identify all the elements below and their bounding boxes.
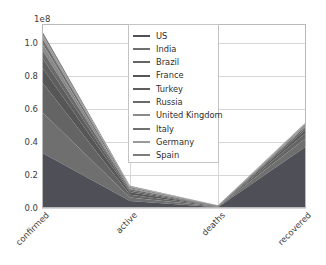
chart-figure: 1e8 0.00.20.40.60.81.0 confirmedactivede… (0, 0, 326, 265)
x-tick-label: recovered (262, 210, 313, 261)
gridline-horizontal (42, 208, 306, 209)
legend-label: Italy (156, 125, 174, 133)
legend-label: India (156, 45, 176, 53)
legend-swatch-line-icon (133, 35, 150, 37)
legend-label: Germany (156, 138, 194, 146)
y-tick-label: 0.8 (24, 71, 38, 81)
y-tick-label: 0.2 (24, 170, 38, 180)
legend-swatch-line-icon (133, 101, 150, 103)
legend-item[interactable]: United Kingdom (133, 109, 214, 122)
x-tick-label: confirmed (0, 210, 51, 261)
y-tick-label: 0.0 (24, 203, 38, 213)
legend-label: US (156, 32, 167, 40)
legend-item[interactable]: France (133, 69, 214, 82)
legend-item[interactable]: US (133, 29, 214, 42)
legend-swatch-line-icon (133, 75, 150, 77)
legend-label: Brazil (156, 58, 179, 66)
y-axis-tick-labels: 0.00.20.40.60.81.0 (0, 24, 38, 208)
legend-item[interactable]: India (133, 42, 214, 55)
legend-label: Spain (156, 151, 179, 159)
legend-item[interactable]: Russia (133, 95, 214, 108)
y-tick-label: 0.4 (24, 137, 38, 147)
legend-item[interactable]: Spain (133, 149, 214, 162)
chart-legend[interactable]: USIndiaBrazilFranceTurkeyRussiaUnited Ki… (128, 24, 219, 163)
legend-item[interactable]: Turkey (133, 82, 214, 95)
y-tick-label: 1.0 (24, 38, 38, 48)
legend-item[interactable]: Brazil (133, 56, 214, 69)
y-tick-label: 0.6 (24, 104, 38, 114)
legend-label: France (156, 71, 184, 79)
legend-swatch-line-icon (133, 114, 150, 116)
x-tick-label: active (88, 210, 139, 261)
legend-swatch-line-icon (133, 48, 150, 50)
legend-label: Russia (156, 98, 183, 106)
x-tick-label: deaths (176, 210, 227, 261)
legend-swatch-line-icon (133, 141, 150, 143)
legend-swatch-line-icon (133, 154, 150, 156)
y-axis-offset-label: 1e8 (34, 14, 51, 24)
legend-swatch-line-icon (133, 128, 150, 130)
x-axis-tick-labels: confirmedactivedeathsrecovered (42, 210, 306, 265)
legend-label: United Kingdom (156, 111, 223, 119)
legend-swatch-line-icon (133, 61, 150, 63)
legend-swatch-line-icon (133, 88, 150, 90)
legend-item[interactable]: Italy (133, 122, 214, 135)
legend-item[interactable]: Germany (133, 135, 214, 148)
legend-label: Turkey (156, 85, 183, 93)
